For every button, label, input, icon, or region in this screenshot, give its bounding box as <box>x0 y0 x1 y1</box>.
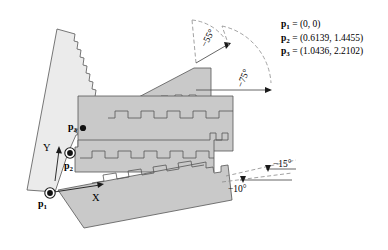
legend-row-p1: p1 = (0, 0) <box>281 18 363 32</box>
legend-equals-p3: = <box>292 46 297 56</box>
point-label-p1: p1 <box>38 198 47 209</box>
coordinate-legend: p1 = (0, 0) p2 = (0.6139, 1.4455) p3 = (… <box>281 18 363 59</box>
joint-marker-p2 <box>65 148 75 158</box>
joint-marker-p3 <box>80 125 86 131</box>
legend-equals-p2: = <box>292 33 297 43</box>
legend-subscript-p1: 1 <box>286 23 290 31</box>
angle-label-15: −15° <box>273 159 292 169</box>
legend-symbol-p3: p3 <box>281 46 290 56</box>
legend-value-p3: (1.0436, 2.2102) <box>300 46 363 56</box>
joint-marker-p1 <box>45 188 55 198</box>
legend-equals-p1: = <box>292 19 297 29</box>
point-label-p1-subscript: 1 <box>44 203 48 211</box>
legend-symbol-p2: p2 <box>281 33 290 43</box>
point-label-p2-subscript: 2 <box>70 165 74 173</box>
legend-value-p1: (0, 0) <box>300 19 321 29</box>
kinematics-figure: p1 = (0, 0) p2 = (0.6139, 1.4455) p3 = (… <box>0 0 388 250</box>
point-label-p2: p2 <box>64 160 73 171</box>
legend-row-p3: p3 = (1.0436, 2.2102) <box>281 45 363 59</box>
legend-row-p2: p2 = (0.6139, 1.4455) <box>281 32 363 46</box>
point-label-p3: p3 <box>68 121 77 132</box>
legend-symbol-p1: p1 <box>281 19 290 29</box>
x-axis-label: X <box>92 192 100 203</box>
y-axis-label: Y <box>43 142 51 153</box>
legend-subscript-p2: 2 <box>286 37 290 45</box>
point-label-p3-subscript: 3 <box>74 126 78 134</box>
angle-label-10: −10° <box>228 184 247 194</box>
legend-value-p2: (0.6139, 1.4455) <box>300 33 363 43</box>
legend-subscript-p3: 3 <box>286 50 290 58</box>
